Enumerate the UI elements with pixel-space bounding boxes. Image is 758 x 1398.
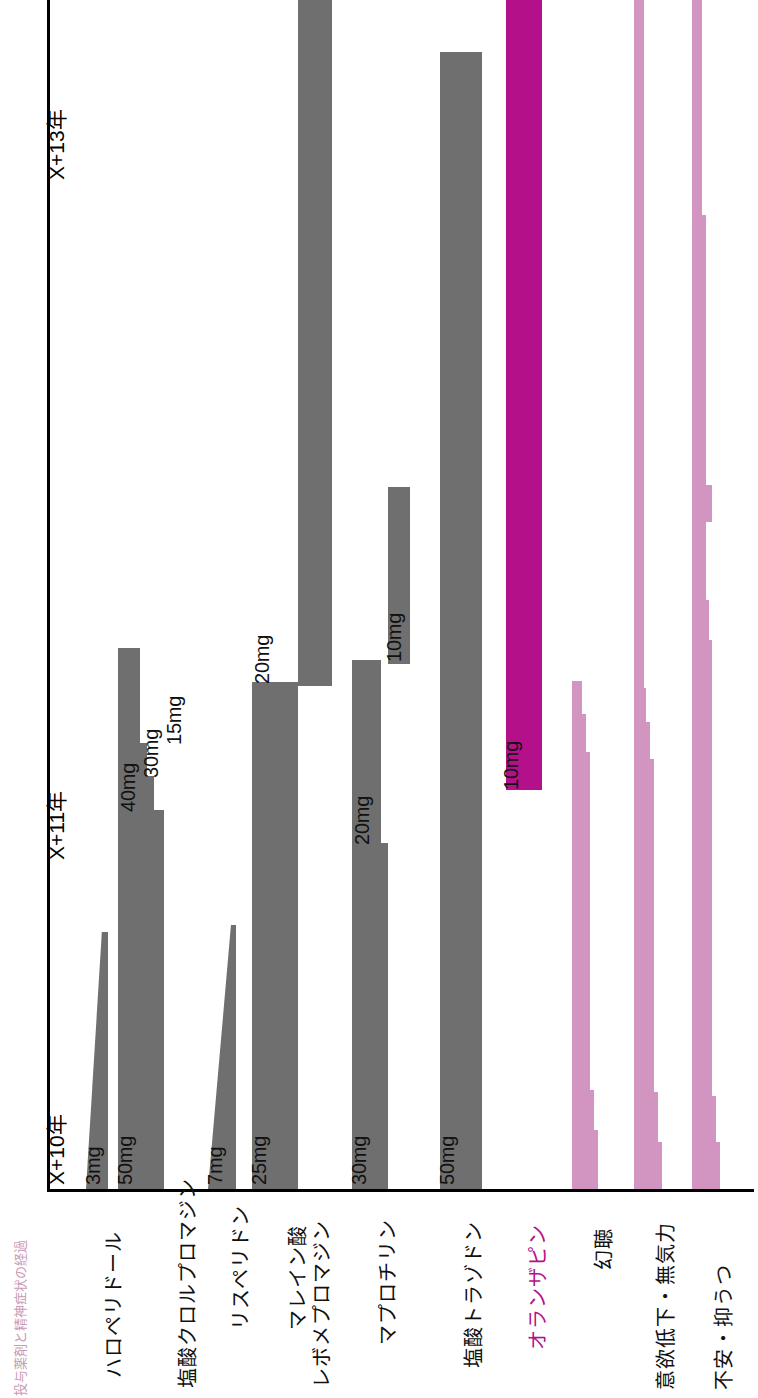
- band-apathy-seg6: [634, 0, 644, 690]
- row-label-chlorpromazine: 塩酸クロルプロマジン: [172, 1178, 201, 1388]
- band-hallucination-seg2: [572, 1090, 594, 1132]
- bar-levomepromazine-20mg: [298, 0, 332, 686]
- band-anxiety-seg8: [692, 0, 702, 217]
- row-label-levomepromazine-line2: レボメプロマジン: [306, 1220, 335, 1388]
- axis-label-x11: X+11年: [40, 791, 70, 860]
- figure-caption: 投与薬剤と精神症状の経過: [10, 1240, 29, 1396]
- dose-chlorpromazine-40mg: 40mg: [117, 763, 140, 812]
- bar-levomepromazine-25mg: [252, 682, 298, 1189]
- bar-chlorpromazine-15mg: [118, 648, 140, 747]
- dose-chlorpromazine-50mg: 50mg: [114, 1136, 137, 1185]
- dose-olanzapine-10mg: 10mg: [500, 741, 523, 790]
- dose-chlorpromazine-30mg: 30mg: [140, 729, 163, 778]
- row-label-haloperidol: ハロペリドール: [98, 1231, 127, 1378]
- band-apathy-seg2: [634, 1092, 658, 1144]
- row-label-apathy: 意欲低下・無気力: [650, 1222, 679, 1390]
- axis-baseline: [48, 1189, 754, 1192]
- dose-maprotiline-30mg: 30mg: [348, 1136, 371, 1185]
- band-apathy-seg5: [634, 688, 646, 724]
- dose-trazodone-50mg: 50mg: [436, 1136, 459, 1185]
- row-label-trazodone: 塩酸トラゾドン: [458, 1221, 487, 1368]
- row-label-risperidone: リスペリドン: [225, 1205, 254, 1330]
- row-label-maprotiline: マプロチリン: [372, 1219, 401, 1345]
- band-anxiety-seg2: [692, 1096, 716, 1144]
- dose-risperidone-7mg: 7mg: [204, 1147, 227, 1185]
- dose-haloperidol-3mg: 3mg: [82, 1147, 105, 1185]
- band-anxiety-seg7: [692, 215, 706, 487]
- band-anxiety-seg1: [692, 1142, 720, 1189]
- bar-olanzapine-10mg: [506, 0, 542, 790]
- row-label-hallucination: 幻聴: [588, 1228, 617, 1270]
- row-label-anxiety: 不安・抑うつ: [708, 1264, 737, 1390]
- bar-chlorpromazine-50mg: [118, 810, 164, 1189]
- band-hallucination-seg4: [572, 714, 586, 754]
- band-apathy-seg1: [634, 1142, 662, 1189]
- band-hallucination-seg3: [572, 752, 590, 1092]
- band-anxiety-seg6: [692, 485, 712, 522]
- dose-levomepromazine-20mg: 20mg: [251, 635, 274, 684]
- dose-maprotiline-10mg: 10mg: [383, 613, 406, 662]
- dose-levomepromazine-25mg: 25mg: [248, 1136, 271, 1185]
- dose-maprotiline-20mg: 20mg: [351, 796, 374, 845]
- band-apathy-seg4: [634, 722, 650, 761]
- band-apathy-seg3: [634, 759, 654, 1094]
- dose-chlorpromazine-15mg: 15mg: [163, 696, 186, 745]
- row-label-olanzapine: オランザピン: [522, 1224, 551, 1350]
- axis-label-x10: X+10年: [40, 1114, 70, 1185]
- band-hallucination-seg5: [572, 681, 582, 716]
- band-anxiety-seg3: [692, 640, 712, 1098]
- axis-label-x13: X+13年: [40, 109, 70, 180]
- band-anxiety-seg4: [692, 600, 709, 642]
- band-anxiety-seg5: [692, 520, 706, 602]
- bar-trazodone-50mg: [440, 52, 482, 1189]
- chart-canvas: X+10年 X+11年 X+13年 投与薬剤と精神症状の経過 3mg 50mg …: [0, 0, 758, 1398]
- band-hallucination-seg1: [572, 1130, 598, 1189]
